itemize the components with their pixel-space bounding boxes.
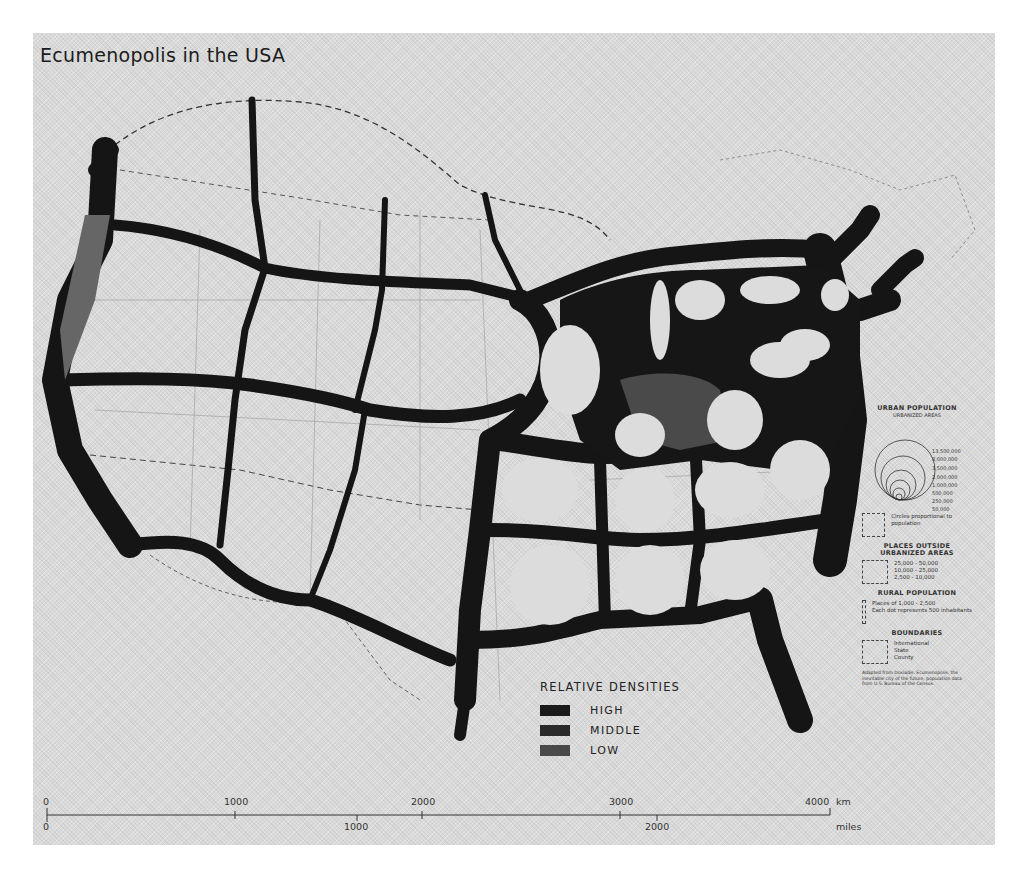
- border-49th: [120, 170, 490, 220]
- mexico-border-line: [90, 455, 480, 510]
- mile-tick: 1000: [344, 821, 368, 832]
- map-title: Ecumenopolis in the USA: [40, 44, 285, 66]
- places-value: 10,000 - 25,000: [894, 567, 938, 574]
- legend-label: HIGH: [590, 704, 624, 717]
- circle-sample-icon: [862, 513, 885, 537]
- legend-item-middle: MIDDLE: [540, 720, 680, 740]
- relative-densities-legend: RELATIVE DENSITIES HIGH MIDDLE LOW: [540, 680, 680, 760]
- high-swatch: [540, 705, 570, 716]
- places-block: 25,000 - 50,000 10,000 - 25,000 2,500 - …: [862, 560, 972, 584]
- international-boundary: [100, 100, 610, 240]
- places-value: 25,000 - 50,000: [894, 560, 938, 567]
- boundaries-sample-icon: [862, 640, 888, 664]
- places-outside-heading: PLACES OUTSIDE URBANIZED AREAS: [862, 543, 972, 557]
- km-tick: 1000: [224, 796, 248, 807]
- legend-item-low: LOW: [540, 740, 680, 760]
- side-legend: URBAN POPULATION URBANIZED AREAS 13,500,…: [862, 405, 972, 687]
- source-note: Adapted from Doxiadis: Ecumenopolis, the…: [862, 670, 972, 687]
- urban-value: 1,000,000: [932, 482, 957, 489]
- urban-value: 50,000: [932, 506, 950, 513]
- legend-item-high: HIGH: [540, 700, 680, 720]
- legend-label: LOW: [590, 744, 619, 757]
- urban-value: 13,500,000: [932, 448, 961, 455]
- km-tick: 3000: [609, 796, 633, 807]
- urban-value: 2,000,000: [932, 474, 957, 481]
- km-tick: 4000: [805, 796, 829, 807]
- legend-heading: RELATIVE DENSITIES: [540, 680, 680, 694]
- urbanized-areas-subheading: URBANIZED AREAS: [862, 412, 972, 419]
- low-density-west: [60, 215, 110, 380]
- boundaries-heading: BOUNDARIES: [862, 630, 972, 637]
- low-swatch: [540, 745, 570, 756]
- circle-note-block: Circles proportional to population: [862, 513, 972, 537]
- km-unit: km: [836, 796, 851, 807]
- urban-value: 3,500,000: [932, 465, 957, 472]
- legend-label: MIDDLE: [590, 724, 641, 737]
- urban-value: 500,000: [932, 490, 953, 497]
- urban-values: 13,500,000 8,000,000 3,500,000 2,000,000…: [862, 422, 972, 510]
- rural-block: Places of 1,000 - 2,500 Each dot represe…: [862, 600, 972, 624]
- rural-line: Places of 1,000 - 2,500: [872, 600, 972, 607]
- scale-bar: [47, 808, 830, 822]
- rural-sample-icon: [862, 600, 866, 624]
- rural-line: Each dot represents 500 inhabitants: [872, 607, 972, 614]
- km-tick: 0: [43, 796, 49, 807]
- boundary-item: International: [894, 640, 929, 647]
- middle-swatch: [540, 725, 570, 736]
- urban-population-heading: URBAN POPULATION: [862, 405, 972, 412]
- circle-note: Circles proportional to population: [891, 513, 972, 537]
- boundary-item: County: [894, 654, 929, 661]
- boundary-item: State: [894, 647, 929, 654]
- places-value: 2,500 - 10,000: [894, 574, 938, 581]
- km-tick: 2000: [411, 796, 435, 807]
- urban-value: 8,000,000: [932, 456, 957, 463]
- boundaries-block: International State County: [862, 640, 972, 664]
- mile-tick: 2000: [645, 821, 669, 832]
- mile-tick: 0: [43, 821, 49, 832]
- urban-value: 250,000: [932, 498, 953, 505]
- mile-unit: miles: [836, 821, 861, 832]
- places-sample-icon: [862, 560, 888, 584]
- rural-population-heading: RURAL POPULATION: [862, 590, 972, 597]
